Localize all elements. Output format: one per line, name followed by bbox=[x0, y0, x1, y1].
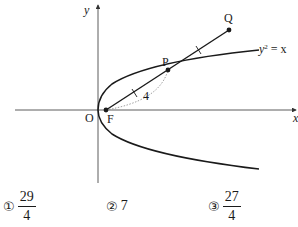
distance-label: 4 bbox=[143, 89, 149, 103]
focus-label: F bbox=[107, 112, 114, 126]
curve-equation-label: y2 = x bbox=[258, 42, 287, 56]
choice-2[interactable]: ② 7 bbox=[106, 186, 128, 226]
point-p-label: P bbox=[162, 55, 169, 69]
equal-tick-pq bbox=[196, 46, 201, 54]
parabola-diagram: y x O F P Q 4 y2 = x bbox=[0, 0, 298, 186]
choice-2-marker: ② bbox=[106, 199, 118, 214]
choice-2-value: 7 bbox=[121, 198, 128, 214]
point-q bbox=[227, 28, 232, 33]
choice-3-marker: ③ bbox=[208, 199, 220, 214]
origin-label: O bbox=[85, 111, 94, 125]
choice-3[interactable]: ③ 27 4 bbox=[208, 186, 241, 226]
y-axis-label: y bbox=[83, 3, 90, 17]
point-q-label: Q bbox=[224, 11, 233, 25]
answer-choices: ① 29 4 ② 7 ③ 27 4 bbox=[0, 186, 298, 227]
choice-1-marker: ① bbox=[3, 199, 15, 214]
choice-3-fraction: 27 4 bbox=[223, 189, 241, 224]
choice-1-fraction: 29 4 bbox=[18, 189, 36, 224]
parabola-curve bbox=[98, 50, 259, 169]
choice-1[interactable]: ① 29 4 bbox=[3, 186, 36, 226]
x-axis-label: x bbox=[292, 111, 298, 125]
